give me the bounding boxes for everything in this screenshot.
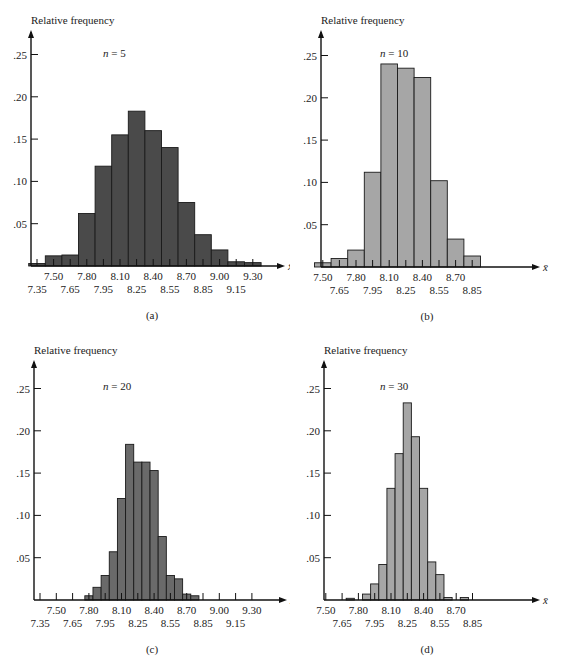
- x-tick-label: 8.70: [177, 604, 197, 616]
- histogram-bar: [93, 587, 101, 600]
- histogram-bar: [431, 181, 448, 267]
- x-tick-label: 9.00: [210, 604, 230, 616]
- histogram-bar: [178, 203, 195, 266]
- x-tick-label: 7.80: [79, 604, 99, 616]
- x-tick-label: 7.65: [332, 617, 352, 629]
- x-tick-label: 8.70: [177, 270, 197, 282]
- sample-size-label: n = 10: [380, 47, 409, 59]
- panel-caption: (b): [421, 310, 434, 323]
- y-tick-label: .25: [13, 49, 27, 61]
- y-tick-label: .10: [13, 175, 27, 187]
- x-axis-arrow-icon: [279, 597, 287, 603]
- x-tick-label: 8.10: [112, 604, 132, 616]
- x-tick-label: 9.00: [210, 270, 230, 282]
- x-tick-label: 8.40: [414, 604, 434, 616]
- x-axis-arrow-icon: [532, 597, 540, 603]
- panel-caption: (d): [421, 643, 434, 656]
- x-tick-label: 7.95: [96, 617, 116, 629]
- y-axis-label: Relative frequency: [321, 14, 405, 26]
- x-tick-label: 8.25: [127, 283, 147, 295]
- histogram-b: Relative frequencyn = 10.05.10.15.20.25x…: [290, 0, 562, 330]
- x-tick-label: 9.15: [227, 283, 247, 295]
- x-tick-label: 7.80: [346, 271, 366, 283]
- histogram-bar: [174, 579, 182, 600]
- x-tick-label: 7.50: [316, 604, 336, 616]
- histogram-bar: [128, 111, 145, 266]
- y-tick-label: .10: [306, 509, 320, 521]
- y-tick-label: .20: [13, 91, 27, 103]
- y-tick-label: .25: [16, 383, 30, 395]
- x-tick-label: 8.55: [160, 283, 180, 295]
- x-tick-label: 7.50: [44, 270, 64, 282]
- x-tick-label: 8.70: [447, 604, 467, 616]
- y-axis-label: Relative frequency: [31, 14, 115, 26]
- histogram-bar: [411, 437, 419, 600]
- x-tick-label: 8.10: [110, 270, 130, 282]
- x-tick-label: 7.80: [349, 604, 369, 616]
- y-tick-label: .15: [306, 467, 320, 479]
- x-tick-label: 8.25: [128, 617, 148, 629]
- histogram-bar: [145, 131, 162, 266]
- sample-size-label: n = 5: [103, 47, 126, 59]
- x-tick-label: 7.95: [94, 283, 114, 295]
- histogram-panel-c: Relative frequencyn = 20.05.10.15.20.25x…: [0, 330, 290, 660]
- y-tick-label: .25: [303, 50, 317, 62]
- y-tick-label: .15: [16, 467, 30, 479]
- x-tick-label: 7.35: [30, 617, 50, 629]
- x-tick-label: 8.25: [396, 284, 416, 296]
- histogram-bar: [95, 166, 112, 266]
- panel-caption: (c): [146, 643, 159, 656]
- x-tick-label: 8.55: [429, 284, 449, 296]
- y-tick-label: .20: [303, 92, 317, 104]
- y-tick-label: .05: [13, 218, 27, 230]
- y-axis-arrow-icon: [31, 360, 37, 368]
- histogram-bar: [428, 562, 436, 600]
- x-tick-label: 7.65: [330, 284, 350, 296]
- y-tick-label: .05: [303, 219, 317, 231]
- sample-size-label: n = 20: [103, 380, 132, 392]
- x-tick-label: 8.55: [430, 617, 450, 629]
- x-tick-label: 8.85: [193, 283, 213, 295]
- x-tick-label: 7.50: [47, 604, 67, 616]
- x-tick-label: 8.10: [381, 604, 401, 616]
- y-axis-arrow-icon: [321, 360, 327, 368]
- y-axis-label: Relative frequency: [34, 344, 118, 356]
- histogram-a: Relative frequencyn = 5.05.10.15.20.25x̄…: [0, 0, 290, 330]
- x-axis-label: x̄: [542, 594, 548, 606]
- panel-caption: (a): [146, 309, 159, 322]
- y-tick-label: .15: [303, 134, 317, 146]
- x-tick-label: 9.30: [243, 270, 263, 282]
- y-tick-label: .05: [306, 552, 320, 564]
- histogram-bar: [381, 64, 398, 267]
- histogram-bar: [150, 471, 158, 600]
- x-tick-label: 9.30: [242, 604, 262, 616]
- histogram-bar: [414, 77, 431, 267]
- x-axis-arrow-icon: [532, 264, 540, 270]
- y-tick-label: .10: [16, 509, 30, 521]
- histogram-panel-d: Relative frequencyn = 30.05.10.15.20.25x…: [290, 330, 562, 660]
- y-tick-label: .20: [306, 425, 320, 437]
- histogram-bar: [364, 172, 381, 267]
- x-tick-label: 7.80: [77, 270, 97, 282]
- y-tick-label: .05: [16, 552, 30, 564]
- x-tick-label: 8.40: [144, 604, 164, 616]
- histogram-bar: [403, 403, 411, 600]
- histogram-bar: [109, 552, 117, 600]
- y-axis-label: Relative frequency: [324, 344, 408, 356]
- histogram-c: Relative frequencyn = 20.05.10.15.20.25x…: [0, 330, 290, 660]
- y-tick-label: .10: [303, 176, 317, 188]
- x-tick-label: 8.85: [463, 284, 483, 296]
- histogram-bar: [126, 444, 134, 600]
- histogram-bar: [398, 68, 415, 267]
- x-axis-arrow-icon: [277, 263, 285, 269]
- histogram-bar: [162, 148, 179, 266]
- histogram-bar: [362, 594, 370, 600]
- histogram-bar: [134, 462, 142, 600]
- sample-size-label: n = 30: [380, 380, 409, 392]
- histogram-bar: [395, 454, 403, 600]
- histogram-bar: [117, 498, 125, 600]
- histogram-bar: [112, 135, 129, 266]
- x-tick-label: 8.25: [398, 617, 418, 629]
- x-tick-label: 8.40: [144, 270, 164, 282]
- x-tick-label: 8.70: [446, 271, 466, 283]
